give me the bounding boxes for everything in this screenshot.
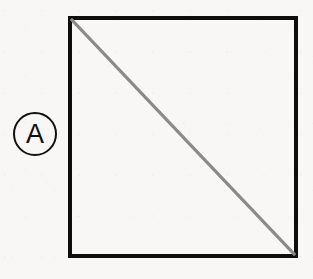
diagonal-line [72,20,294,254]
reference-label-a-text: A [26,120,44,147]
square-outline [68,16,298,258]
reference-label-a: A [13,112,57,156]
diagonal-line-stroke [72,20,294,254]
figure-canvas: A [0,0,313,279]
